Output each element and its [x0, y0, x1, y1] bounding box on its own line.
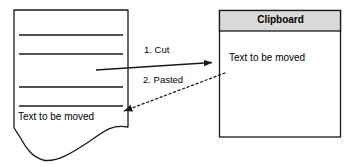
clipboard-title: Clipboard [220, 15, 341, 25]
diagram-canvas: Clipboard Text to be moved Text to be mo… [0, 0, 356, 166]
document-content-text: Text to be moved [18, 112, 94, 122]
cut-arrow-label: 1. Cut [144, 45, 169, 55]
clipboard-panel-shape [220, 11, 341, 138]
clipboard-content-text: Text to be moved [229, 53, 305, 63]
document-page-shape [14, 10, 128, 161]
document-outline [14, 10, 128, 161]
paste-arrow-label: 2. Pasted [143, 75, 183, 85]
